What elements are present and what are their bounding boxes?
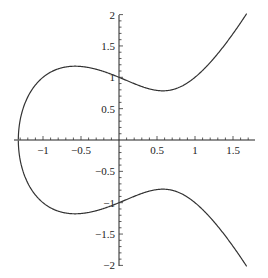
y-tick-label: 1 (110, 71, 116, 83)
x-tick-label: 1 (192, 144, 198, 156)
x-tick-label: −0.5 (71, 144, 91, 156)
y-tick-label: −2 (103, 259, 115, 271)
y-tick-label: −0.5 (95, 165, 115, 177)
y-tick-label: −1.5 (95, 228, 115, 240)
curve-lower-branch (18, 141, 246, 267)
x-tick-label: 1.5 (226, 144, 240, 156)
y-tick-label: 0.5 (101, 103, 115, 115)
y-tick-label: 2 (110, 9, 116, 21)
y-tick-label: 1.5 (101, 40, 115, 52)
x-tick-label: 0.5 (150, 144, 164, 156)
plot-area: −1−0.50.511.5−2−1.5−1−0.50.511.52 (0, 0, 268, 278)
curve-upper-branch (18, 14, 246, 140)
x-tick-label: −1 (37, 144, 49, 156)
